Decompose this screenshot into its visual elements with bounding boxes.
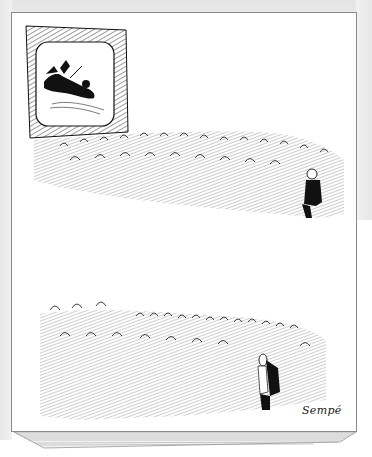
crowd-top bbox=[34, 131, 344, 218]
cartoon-artwork bbox=[0, 0, 372, 457]
television bbox=[26, 26, 128, 138]
crowd-bottom bbox=[40, 302, 326, 420]
artist-signature: Sempé bbox=[302, 404, 342, 417]
